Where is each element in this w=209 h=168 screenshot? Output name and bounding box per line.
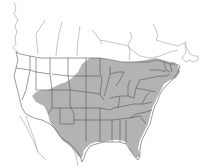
- north-america-map: [0, 0, 209, 168]
- canada-outline: [13, 2, 198, 62]
